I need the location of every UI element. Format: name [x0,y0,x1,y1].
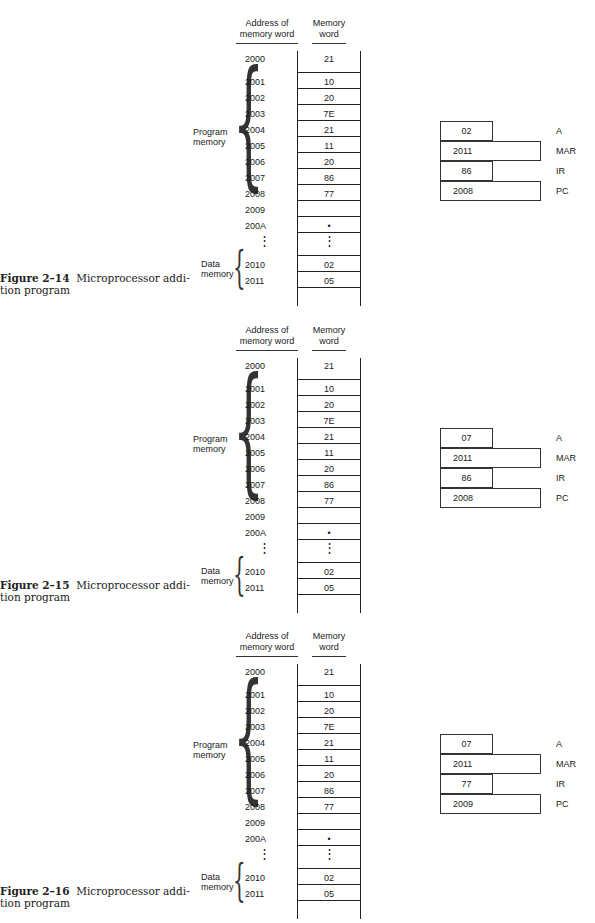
caption-text-2: tion program [0,897,70,909]
register-pc-label: PC [556,181,569,201]
register-a-value: 07 [461,433,471,443]
memory-value: 20 [298,93,360,103]
register-a-box: 07 [440,428,493,448]
register-pc-value: 2008 [453,186,473,196]
memory-address: 2002 [245,706,285,716]
figure-3: Address of memory word Memory word 21102… [0,626,595,923]
memory-value: 20 [298,770,360,780]
memory-value: 7E [298,416,360,426]
row-divider [298,797,360,798]
header-line: Address of [236,18,298,29]
memory-value: 11 [298,141,360,151]
memory-value: 7E [298,722,360,732]
memory-address: 2010 [245,260,285,270]
memory-address: 2000 [245,54,285,64]
memory-value: 21 [298,738,360,748]
memory-address: ⋮ [258,540,298,555]
memory-value: 77 [298,189,360,199]
register-mar-label: MAR [556,754,576,774]
memory-value: • [298,528,360,538]
header-line: memory word [236,29,298,40]
memory-address: 2008 [245,802,285,812]
memory-value: 77 [298,496,360,506]
memory-address: 2003 [245,722,285,732]
header-line: word [306,336,352,347]
memory-address: 2007 [245,480,285,490]
register-mar-label: MAR [556,448,576,468]
label-line: Program [193,434,228,444]
memory-address: 2004 [245,125,285,135]
memory-address: 2002 [245,93,285,103]
program-memory-label: Program memory [193,127,228,147]
memory-address: 2011 [245,889,285,899]
row-divider [298,443,360,444]
register-mar-box: 2011 [440,448,541,468]
figure-caption: Figure 2–15 Microprocessor addi- tion pr… [0,579,230,603]
row-divider [298,152,360,153]
register-a-value: 02 [461,126,471,136]
memory-value: • [298,221,360,231]
memory-address: 200A [245,834,285,844]
memory-value: 11 [298,754,360,764]
memory-address: 2010 [245,567,285,577]
memory-column-header: Memory word [306,631,352,653]
program-memory-label: Program memory [193,740,228,760]
figure-number: Figure 2–16 [0,885,69,897]
register-ir-box: 86 [440,161,493,181]
memory-address: 2005 [245,141,285,151]
memory-address: 2003 [245,416,285,426]
register-a-box: 07 [440,734,493,754]
memory-value: 86 [298,786,360,796]
memory-address: 2001 [245,690,285,700]
row-divider [298,411,360,412]
memory-address: 2002 [245,400,285,410]
register-ir-value: 86 [461,166,471,176]
memory-value: 86 [298,173,360,183]
memory-table: 2110207E2111208677•⋮0205 [297,664,361,919]
row-divider [298,232,360,233]
row-divider [298,733,360,734]
register-a-value: 07 [461,739,471,749]
row-divider [298,717,360,718]
row-divider [298,136,360,137]
label-line: memory [193,137,228,147]
label-line: Data [201,259,234,269]
row-divider [298,88,360,89]
caption-text-1: Microprocessor addi- [76,885,190,897]
memory-value: 10 [298,384,360,394]
register-a-label: A [556,121,562,141]
header-line: Memory [306,631,352,642]
memory-column-header: Memory word [306,18,352,40]
memory-value: ⋮ [298,233,360,248]
memory-address: 2004 [245,738,285,748]
memory-value: 21 [298,361,360,371]
figure-caption: Figure 2–14 Microprocessor addi- tion pr… [0,272,230,296]
row-divider [298,749,360,750]
memory-address: 200A [245,528,285,538]
memory-address: 2009 [245,818,285,828]
memory-address: 2001 [245,77,285,87]
label-line: memory [193,444,228,454]
row-divider [298,765,360,766]
row-divider [298,701,360,702]
row-divider [298,900,360,901]
figure-number: Figure 2–14 [0,272,69,284]
memory-address: 2006 [245,157,285,167]
row-divider [298,120,360,121]
address-column-header: Address of memory word [236,631,298,653]
register-a-box: 02 [440,121,493,141]
register-pc-box: 2008 [440,181,541,201]
header-line: memory word [236,336,298,347]
register-ir-box: 86 [440,468,493,488]
register-ir-box: 77 [440,774,493,794]
header-line: word [306,642,352,653]
header-underline [312,43,346,44]
row-divider [298,578,360,579]
label-line: Data [201,872,234,882]
row-divider [298,781,360,782]
label-line: Data [201,566,234,576]
caption-text-2: tion program [0,591,70,603]
memory-address: 2011 [245,583,285,593]
header-line: Memory [306,18,352,29]
memory-value: 10 [298,77,360,87]
